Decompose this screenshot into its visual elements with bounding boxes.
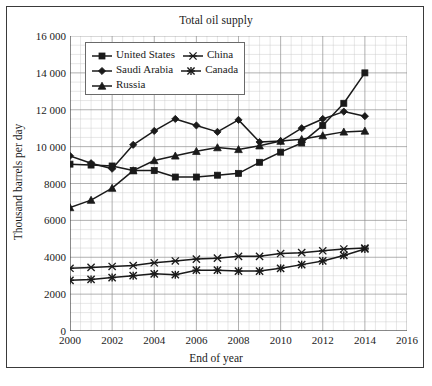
legend-swatch: [90, 48, 114, 60]
y-tick-label: 6000: [6, 214, 66, 226]
diamond-marker-icon: [90, 65, 114, 77]
y-tick-label: 2000: [6, 288, 66, 300]
legend-entry-canada[interactable]: Canada: [179, 63, 238, 75]
y-tick-label: 10 000: [6, 141, 66, 153]
legend-swatch: [181, 48, 205, 60]
chart-figure: Total oil supply Thousand barrels per da…: [0, 0, 432, 386]
chart-title: Total oil supply: [0, 14, 432, 26]
legend-swatch: [90, 78, 114, 90]
x-axis-tick-labels: 200020022004200620082010201220142016: [70, 334, 407, 352]
triangle-marker-icon: [90, 80, 114, 92]
legend-entry-china[interactable]: China: [181, 48, 233, 60]
x-axis-label: End of year: [0, 352, 432, 364]
legend-label: United States: [114, 48, 175, 60]
legend-label: Russia: [114, 78, 145, 90]
x-tick-label: 2016: [382, 334, 432, 346]
legend-row: Russia: [90, 76, 238, 91]
legend-entry-united-states[interactable]: United States: [90, 48, 175, 60]
legend-row: Saudi ArabiaCanada: [90, 61, 238, 76]
legend-label: Saudi Arabia: [114, 63, 173, 75]
star-marker-icon: [179, 65, 203, 77]
y-tick-label: 14 000: [6, 67, 66, 79]
y-axis-tick-labels: 0200040006000800010 00012 00014 00016 00…: [2, 36, 66, 331]
y-tick-label: 12 000: [6, 104, 66, 116]
y-tick-label: 4000: [6, 251, 66, 263]
legend-row: United StatesChina: [90, 46, 238, 61]
legend-label: China: [205, 48, 233, 60]
chart-legend: United StatesChinaSaudi ArabiaCanadaRuss…: [85, 42, 245, 95]
asterisk-marker-icon: [181, 50, 205, 62]
legend-swatch: [90, 63, 114, 75]
y-tick-label: 16 000: [6, 30, 66, 42]
legend-label: Canada: [203, 63, 238, 75]
legend-entry-russia[interactable]: Russia: [90, 78, 145, 90]
legend-swatch: [179, 63, 203, 75]
y-tick-label: 8000: [6, 178, 66, 190]
legend-entry-saudi-arabia[interactable]: Saudi Arabia: [90, 63, 173, 75]
square-marker-icon: [90, 50, 114, 62]
